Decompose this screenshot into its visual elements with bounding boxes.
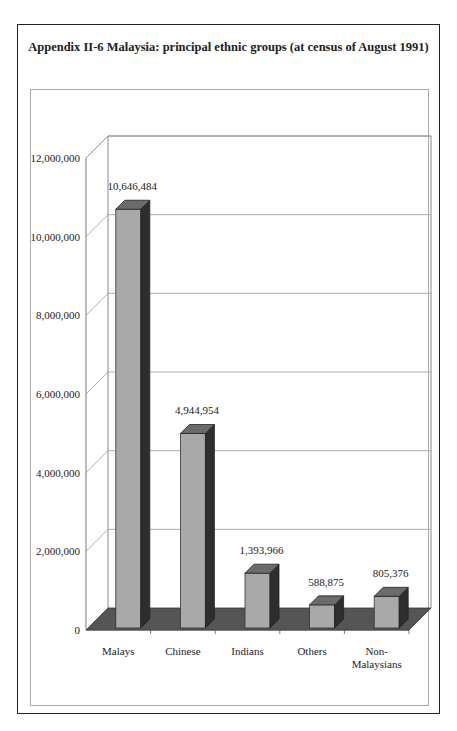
gridline-side (86, 293, 108, 315)
x-tick-label: Malays (102, 645, 134, 657)
bar-front (310, 605, 335, 628)
y-tick-label: 4,000,000 (36, 467, 81, 479)
x-tick-label: Malaysians (352, 658, 402, 670)
bar-side (205, 424, 214, 628)
gridline-side (86, 136, 108, 158)
value-label: 1,393,966 (240, 544, 285, 556)
y-tick-label: 10,000,000 (31, 231, 81, 243)
bar-chart: 02,000,0004,000,0006,000,0008,000,00010,… (0, 0, 457, 731)
gridline-side (86, 529, 108, 551)
bar-front (180, 433, 205, 628)
gridline-side (86, 215, 108, 237)
bar-side (141, 200, 150, 628)
x-tick-label: Indians (231, 645, 263, 657)
y-tick-label: 6,000,000 (36, 388, 81, 400)
gridline-side (86, 451, 108, 473)
bar-front (116, 209, 141, 628)
value-label: 4,944,954 (175, 404, 220, 416)
y-tick-label: 12,000,000 (31, 152, 81, 164)
bar-side (270, 564, 279, 628)
value-label: 805,376 (373, 567, 409, 579)
y-tick-label: 8,000,000 (36, 309, 81, 321)
y-tick-label: 0 (75, 624, 81, 636)
gridline-side (86, 372, 108, 394)
x-tick-label: Non- (365, 645, 388, 657)
bar-front (374, 596, 399, 628)
x-tick-label: Others (297, 645, 326, 657)
value-label: 10,646,484 (108, 180, 158, 192)
y-tick-label: 2,000,000 (36, 545, 81, 557)
bar-front (245, 573, 270, 628)
value-label: 588,875 (308, 576, 344, 588)
x-tick-label: Chinese (165, 645, 201, 657)
